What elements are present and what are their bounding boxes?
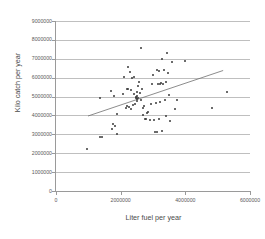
y-tick-mark — [52, 115, 56, 116]
data-point — [162, 83, 164, 85]
y-tick-label: 0 — [49, 188, 52, 194]
y-tick-mark — [52, 40, 56, 41]
y-tick-label: 2000000 — [32, 150, 52, 156]
y-tick-label: 9000000 — [32, 18, 52, 24]
data-point — [129, 71, 131, 73]
y-tick-label: 6000000 — [32, 74, 52, 80]
y-tick-mark — [52, 78, 56, 79]
data-point — [165, 81, 167, 83]
y-tick-label: 7000000 — [32, 55, 52, 61]
trendline-segment — [88, 70, 223, 116]
data-point — [174, 108, 176, 110]
data-point — [176, 99, 178, 101]
data-point — [158, 70, 160, 72]
x-tick-mark — [56, 191, 57, 195]
y-tick-label: 4000000 — [32, 112, 52, 118]
data-point — [140, 47, 142, 49]
data-point — [163, 69, 165, 71]
y-tick-mark — [52, 153, 56, 154]
x-tick-label: 0 — [55, 197, 58, 203]
x-axis-title: Liter fuel per year — [56, 213, 251, 222]
scatter-chart: 0100000020000003000000400000050000006000… — [0, 0, 265, 239]
plot-area — [56, 21, 250, 191]
y-tick-label: 5000000 — [32, 93, 52, 99]
data-point — [130, 89, 132, 91]
y-axis-line — [55, 21, 56, 192]
x-tick-label: 6000000 — [240, 197, 260, 203]
x-tick-label: 4000000 — [175, 197, 195, 203]
y-tick-mark — [52, 59, 56, 60]
y-tick-label: 3000000 — [32, 131, 52, 137]
y-tick-label: 1000000 — [32, 169, 52, 175]
y-tick-label: 8000000 — [32, 36, 52, 42]
data-point — [164, 99, 166, 101]
data-point — [143, 105, 145, 107]
x-tick-mark — [185, 191, 186, 195]
data-point — [165, 115, 167, 117]
data-point — [110, 90, 112, 92]
x-tick-mark — [121, 191, 122, 195]
y-tick-mark — [52, 134, 56, 135]
y-tick-mark — [52, 97, 56, 98]
data-point — [149, 119, 151, 121]
data-point — [134, 103, 136, 105]
data-point — [155, 102, 157, 104]
data-point — [168, 94, 170, 96]
x-tick-mark — [250, 191, 251, 195]
data-point — [116, 133, 118, 135]
y-tick-mark — [52, 172, 56, 173]
data-point — [123, 76, 125, 78]
data-point — [156, 131, 158, 133]
y-tick-mark — [52, 21, 56, 22]
data-point — [136, 100, 138, 102]
data-point — [169, 120, 171, 122]
data-point — [141, 88, 143, 90]
x-axis-line — [56, 191, 251, 192]
data-point — [142, 114, 144, 116]
y-axis-title: Kilo catch per year — [13, 45, 22, 121]
x-tick-label: 2000000 — [111, 197, 131, 203]
data-point — [139, 92, 141, 94]
trendline — [56, 21, 250, 191]
data-point — [158, 118, 160, 120]
data-point — [161, 58, 163, 60]
data-point — [167, 72, 169, 74]
